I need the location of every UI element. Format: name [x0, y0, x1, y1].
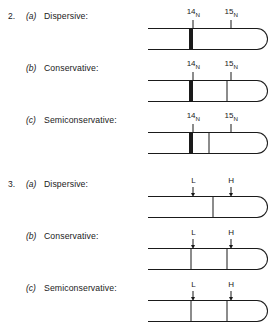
dna-band-thin [227, 80, 228, 102]
isotope-element: N [233, 11, 237, 18]
row-letter: (a) [26, 179, 36, 189]
row-letter: (b) [26, 231, 36, 241]
row-label: Semiconservative: [44, 283, 117, 293]
tube-bottom-wall [148, 269, 256, 270]
row-label: Conservative: [44, 231, 98, 241]
tube-bottom-wall [148, 101, 256, 102]
answer-row: (c) Semiconservative: L H [0, 280, 280, 330]
tick-mark-icon [193, 20, 194, 28]
answer-row: (a) Dispersive: 14N 15N [0, 8, 280, 58]
tube-top-wall [148, 132, 256, 133]
centrifuge-tube-diagram: 14N 15N [148, 8, 274, 56]
tube-top-wall [148, 28, 256, 29]
tube-top-wall [148, 196, 256, 197]
row-label: Conservative: [44, 63, 98, 73]
tube-bottom-wall [148, 153, 256, 154]
dna-band-thick [189, 132, 193, 154]
dna-band-thin [227, 300, 228, 322]
tick-mark-icon [193, 124, 194, 132]
tube-bottom-wall [148, 321, 256, 322]
row-letter: (b) [26, 63, 36, 73]
tube-bottom-wall [148, 49, 256, 50]
answer-row: (c) Semiconservative: 14N 15N [0, 112, 280, 162]
isotope-mass: 15 [224, 59, 233, 68]
tick-mark-icon [231, 72, 232, 80]
centrifuge-tube-diagram: 14N 15N [148, 112, 274, 160]
isotope-mass: 15 [224, 7, 233, 16]
tick-mark-icon [231, 124, 232, 132]
tube-rounded-end [245, 196, 268, 218]
isotope-element: N [196, 115, 200, 122]
tube-rounded-end [245, 300, 268, 322]
row-label: Dispersive: [44, 179, 88, 189]
centrifuge-tube-diagram: L H [148, 176, 274, 224]
tube-rounded-end [245, 28, 268, 50]
row-label: Dispersive: [44, 11, 88, 21]
tube-outline [148, 300, 268, 322]
centrifuge-tube-diagram: 14N 15N [148, 60, 274, 108]
tube-bottom-wall [148, 217, 256, 218]
marker-text: L [191, 176, 195, 185]
tube-rounded-end [245, 132, 268, 154]
tick-mark-icon [231, 20, 232, 28]
dna-band-thin [191, 248, 192, 270]
tube-top-wall [148, 300, 256, 301]
answer-row: (a) Dispersive: L H [0, 176, 280, 226]
marker-text: L [191, 280, 195, 289]
tick-mark-icon [193, 72, 194, 80]
isotope-mass: 15 [224, 111, 233, 120]
row-label: Semiconservative: [44, 115, 117, 125]
centrifuge-tube-diagram: L H [148, 280, 274, 328]
tube-rounded-end [245, 248, 268, 270]
answer-row: (b) Conservative: L H [0, 228, 280, 278]
isotope-mass: 14 [187, 59, 196, 68]
tube-rounded-end [245, 80, 268, 102]
tube-top-wall [148, 248, 256, 249]
tube-outline [148, 196, 268, 218]
marker-text: H [228, 228, 234, 237]
marker-text: L [191, 228, 195, 237]
marker-text: H [228, 176, 234, 185]
tube-outline [148, 248, 268, 270]
centrifuge-tube-diagram: L H [148, 228, 274, 276]
tube-top-wall [148, 80, 256, 81]
isotope-element: N [196, 11, 200, 18]
dna-band-thin [191, 300, 192, 322]
tube-outline [148, 80, 268, 102]
row-letter: (c) [26, 115, 36, 125]
isotope-element: N [233, 63, 237, 70]
row-letter: (a) [26, 11, 36, 21]
isotope-element: N [233, 115, 237, 122]
answer-row: (b) Conservative: 14N 15N [0, 60, 280, 110]
isotope-element: N [196, 63, 200, 70]
tube-outline [148, 28, 268, 50]
isotope-mass: 14 [187, 111, 196, 120]
isotope-mass: 14 [187, 7, 196, 16]
dna-band-thick [189, 80, 193, 102]
dna-band-thin [209, 132, 210, 154]
tube-outline [148, 132, 268, 154]
dna-band-thin [227, 248, 228, 270]
density-gradient-figure: 2. (a) Dispersive: 14N 15N [0, 0, 280, 336]
marker-text: H [228, 280, 234, 289]
dna-band-thin [212, 196, 213, 218]
dna-band-thick [189, 28, 193, 50]
row-letter: (c) [26, 283, 36, 293]
